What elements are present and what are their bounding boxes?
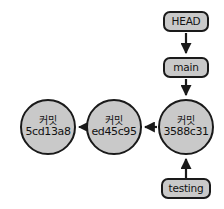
commit-node-ed45c95[interactable]: 커밋 ed45c95 [86, 99, 142, 155]
commit-node-5cd13a8[interactable]: 커밋 5cd13a8 [20, 99, 76, 155]
git-commit-graph-diagram: HEAD main testing 커밋 5cd13a8 커밋 ed45c95 … [0, 0, 224, 209]
commit-hash-1: 5cd13a8 [26, 126, 71, 138]
commit-hash-3: 3588c31 [163, 126, 208, 138]
ref-node-head[interactable]: HEAD [163, 11, 209, 32]
ref-label-testing: testing [169, 183, 204, 194]
ref-label-head: HEAD [172, 16, 201, 27]
ref-node-testing[interactable]: testing [161, 178, 211, 199]
commit-node-3588c31[interactable]: 커밋 3588c31 [158, 99, 214, 155]
commit-hash-2: ed45c95 [92, 126, 137, 138]
ref-node-main[interactable]: main [163, 57, 209, 78]
ref-label-main: main [173, 62, 198, 73]
